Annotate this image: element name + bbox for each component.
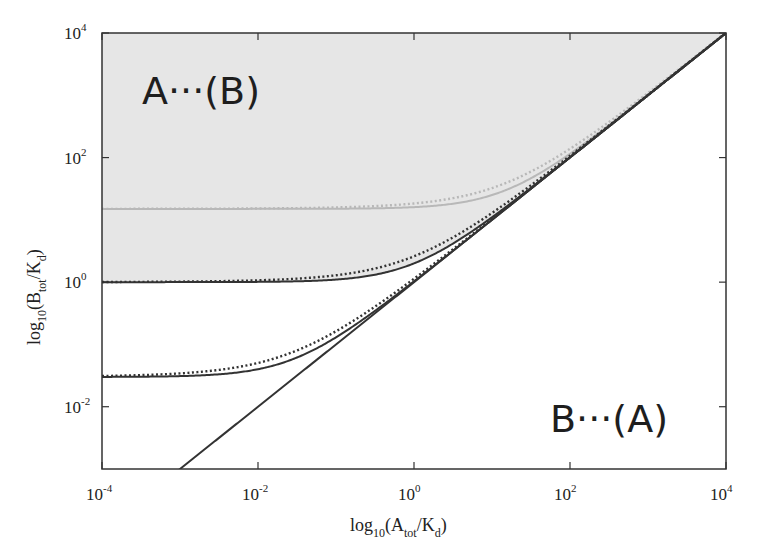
x-axis-label: log10(Atot/Kd)	[350, 515, 447, 540]
chart: 10-410-210010210410-2100102104 A···(B) B…	[0, 0, 757, 557]
y-axis-label: log10(Btot/Kd)	[24, 249, 49, 345]
y-tick-label: 10-2	[64, 395, 90, 417]
y-tick-label: 104	[64, 21, 87, 43]
x-tick-label: 102	[554, 482, 577, 504]
y-tick-label: 102	[64, 146, 87, 168]
x-tick-label: 10-4	[86, 482, 113, 504]
y-tick-label: 100	[64, 270, 87, 292]
x-tick-label: 104	[710, 482, 733, 504]
region-label-top: A···(B)	[142, 69, 260, 113]
x-tick-label: 100	[398, 482, 421, 504]
region-label-bottom: B···(A)	[550, 397, 668, 441]
x-tick-label: 10-2	[242, 482, 268, 504]
